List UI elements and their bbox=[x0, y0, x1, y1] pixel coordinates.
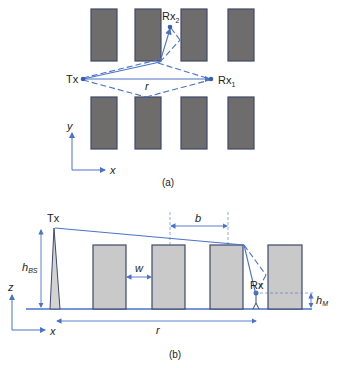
distance-r-label: r bbox=[145, 80, 150, 92]
rx2-node bbox=[168, 25, 173, 30]
tx-node bbox=[81, 77, 86, 82]
w-label: w bbox=[135, 262, 144, 274]
reflected-ray-to-rx1-top bbox=[158, 63, 210, 79]
tx-label: Tx bbox=[66, 73, 79, 85]
x-axis-label-b: x bbox=[49, 325, 56, 337]
building-b-4 bbox=[268, 245, 302, 309]
panel-a-top-view: Tx Rx1 Rx2 r y x (a) bbox=[66, 9, 254, 188]
hbs-label: hBS bbox=[22, 261, 38, 274]
building-b-1 bbox=[93, 245, 126, 309]
building-a-top-2 bbox=[135, 9, 161, 61]
reflected-ray-bottom-b bbox=[146, 80, 210, 97]
rx2-label: Rx2 bbox=[162, 10, 179, 24]
rx-label-b: Rx bbox=[250, 279, 264, 291]
building-a-top-3 bbox=[181, 9, 207, 61]
over-rooftop-ray bbox=[55, 228, 244, 245]
rx1-label: Rx1 bbox=[218, 74, 235, 88]
rx1-node bbox=[209, 77, 214, 82]
reflected-ray-bottom-a bbox=[83, 80, 146, 97]
z-axis-label: z bbox=[7, 281, 14, 293]
rx-person-icon bbox=[253, 291, 259, 310]
building-a-top-4 bbox=[228, 9, 254, 61]
building-a-bottom-1 bbox=[91, 97, 117, 149]
panel-b-side-view: Tx Rx hBS w b hM bbox=[7, 212, 328, 360]
r-label-b: r bbox=[156, 324, 161, 336]
b-label: b bbox=[195, 212, 201, 224]
reflected-ray-rx2-b bbox=[171, 28, 180, 40]
ray-to-corner bbox=[83, 62, 160, 79]
y-axis-label: y bbox=[66, 120, 74, 132]
reflected-ray-top bbox=[83, 60, 157, 78]
x-axis-label: x bbox=[109, 164, 116, 176]
caption-b: (b) bbox=[169, 349, 181, 360]
building-a-top-1 bbox=[91, 9, 117, 61]
propagation-diagram: Tx Rx1 Rx2 r y x (a) Tx bbox=[0, 0, 340, 368]
building-a-bottom-3 bbox=[181, 97, 207, 149]
building-a-bottom-4 bbox=[228, 97, 254, 149]
building-a-bottom-2 bbox=[135, 97, 161, 149]
caption-a: (a) bbox=[162, 177, 174, 188]
hm-label: hM bbox=[316, 294, 328, 307]
tx-label-b: Tx bbox=[47, 212, 60, 224]
building-b-2 bbox=[152, 245, 185, 309]
building-b-3 bbox=[210, 245, 243, 309]
tx-tower bbox=[50, 228, 60, 309]
